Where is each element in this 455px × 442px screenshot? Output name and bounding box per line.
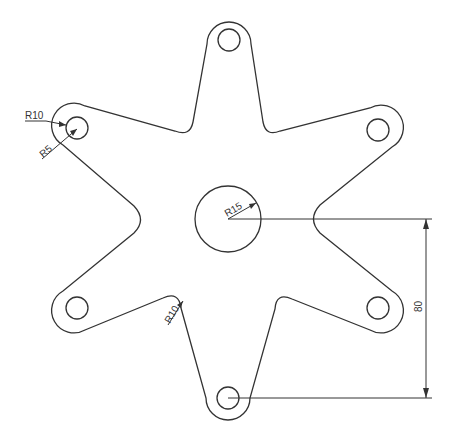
dim-r10-fillet: R10 — [162, 301, 183, 325]
dim-r5: R5 — [37, 129, 77, 160]
dim-r10-lobe: R10 — [25, 110, 66, 127]
part-outline — [52, 22, 404, 420]
dim-text-r10-lobe: R10 — [25, 110, 44, 121]
dim-text-80: 80 — [413, 300, 424, 312]
cad-drawing: R15 R10 R5 R10 80 — [0, 0, 455, 442]
hole-lower-left — [66, 297, 88, 319]
hole-lower-right — [367, 297, 389, 319]
dim-r15: R15 — [223, 200, 257, 219]
hole-top — [218, 29, 240, 51]
hole-upper-right — [367, 119, 389, 141]
dim-text-r5: R5 — [37, 143, 54, 160]
dim-text-r10-fillet: R10 — [162, 303, 181, 325]
dim-80: 80 — [228, 219, 432, 398]
